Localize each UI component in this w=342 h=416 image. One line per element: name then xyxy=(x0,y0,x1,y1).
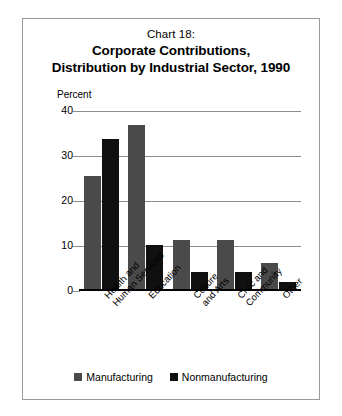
bar-group xyxy=(79,111,123,291)
chart-title-main: Corporate Contributions, xyxy=(23,42,319,59)
chart-title-sub: Distribution by Industrial Sector, 1990 xyxy=(23,59,319,76)
chart-legend: ManufacturingNonmanufacturing xyxy=(23,371,319,383)
y-tick-label-20: 20 xyxy=(61,194,73,206)
category-labels: Health and Human ServicesEducationCultur… xyxy=(79,293,301,371)
chart-figure: Chart 18: Corporate Contributions, Distr… xyxy=(22,18,320,400)
legend-item: Manufacturing xyxy=(74,371,153,383)
legend-swatch-manufacturing xyxy=(74,373,82,381)
bar-nonmanufacturing xyxy=(102,139,119,291)
y-tick-label-40: 40 xyxy=(61,104,73,116)
chart-title-block: Chart 18: Corporate Contributions, Distr… xyxy=(23,27,319,76)
y-tick-mark-0 xyxy=(73,291,80,292)
legend-label: Manufacturing xyxy=(86,371,153,383)
legend-label: Nonmanufacturing xyxy=(182,371,268,383)
y-tick-label-10: 10 xyxy=(61,239,73,251)
y-tick-label-0: 0 xyxy=(67,284,73,296)
bar-group xyxy=(212,111,256,291)
chart-number: Chart 18: xyxy=(23,27,319,42)
bar-manufacturing xyxy=(84,176,101,291)
y-axis-label: Percent xyxy=(57,89,91,100)
y-tick-label-30: 30 xyxy=(61,149,73,161)
legend-swatch-nonmanufacturing xyxy=(170,373,178,381)
legend-item: Nonmanufacturing xyxy=(170,371,268,383)
